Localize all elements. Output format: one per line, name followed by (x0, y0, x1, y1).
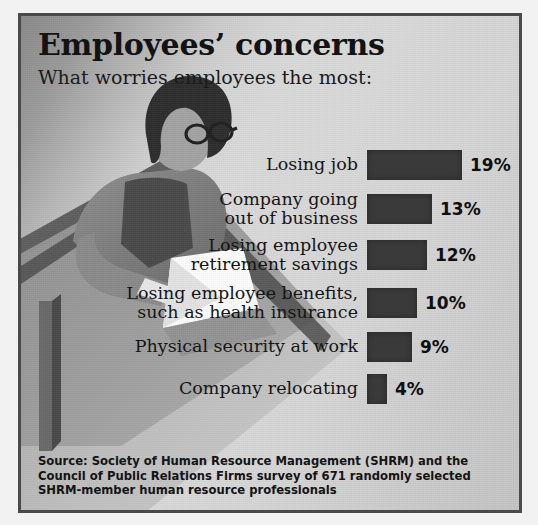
bar-label: Losing employee benefits, such as health… (21, 284, 367, 323)
chart-row: Company relocating4% (21, 372, 522, 406)
chart-row: Physical security at work9% (21, 330, 522, 364)
bar (367, 194, 432, 224)
bar-label: Losing employee retirement savings (21, 236, 367, 275)
bar-label: Physical security at work (21, 337, 367, 357)
bar-label: Company relocating (21, 379, 367, 399)
bar-value-label: 9% (412, 337, 449, 357)
bar (367, 332, 412, 362)
infographic-frame: Employees’ concerns What worries employe… (18, 13, 522, 513)
bar (367, 150, 462, 180)
chart-row: Losing employee benefits, such as health… (21, 286, 522, 320)
source-divider (21, 512, 522, 513)
bar-label: Company going out of business (21, 190, 367, 229)
bar-value-label: 13% (432, 199, 481, 219)
page-title: Employees’ concerns (38, 28, 468, 62)
bar-label: Losing job (21, 155, 367, 175)
bar-value-label: 4% (387, 379, 424, 399)
chart-row: Company going out of business13% (21, 192, 522, 226)
chart-row: Losing employee retirement savings12% (21, 238, 522, 272)
bar-value-label: 19% (462, 155, 511, 175)
bar-value-label: 10% (417, 293, 466, 313)
bar (367, 240, 427, 270)
bar (367, 288, 417, 318)
source-note: Source: Society of Human Resource Manage… (38, 454, 508, 498)
bar-value-label: 12% (427, 245, 476, 265)
header: Employees’ concerns What worries employe… (38, 28, 468, 89)
page-subtitle: What worries employees the most: (38, 65, 468, 89)
chart-row: Losing job19% (21, 148, 522, 182)
bar (367, 374, 387, 404)
infographic-root: Employees’ concerns What worries employe… (0, 0, 538, 525)
